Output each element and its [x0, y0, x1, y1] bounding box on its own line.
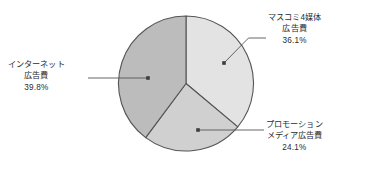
slice-label-mass-line2: 広告費 — [268, 24, 321, 35]
pie-chart: マスコミ4媒体 広告費 36.1% インターネット 広告費 39.8% プロモー… — [0, 0, 373, 174]
slice-label-promo-line1: プロモーション — [266, 120, 323, 131]
slice-percent-internet: 39.8% — [8, 83, 65, 94]
slice-percent-promo: 24.1% — [266, 143, 323, 154]
leader-dot-promo — [196, 128, 200, 132]
leader-dot-internet — [146, 76, 150, 80]
slice-label-mass-line1: マスコミ4媒体 — [268, 13, 321, 24]
slice-label-internet: インターネット 広告費 39.8% — [8, 60, 65, 93]
leader-dot-mass — [222, 61, 226, 65]
slice-label-promo: プロモーション メディア広告費 24.1% — [266, 120, 323, 153]
slice-label-mass: マスコミ4媒体 広告費 36.1% — [268, 13, 321, 46]
slice-label-promo-line2: メディア広告費 — [266, 131, 323, 142]
slice-percent-mass: 36.1% — [268, 36, 321, 47]
slice-label-internet-line2: 広告費 — [8, 71, 65, 82]
slice-label-internet-line1: インターネット — [8, 60, 65, 71]
